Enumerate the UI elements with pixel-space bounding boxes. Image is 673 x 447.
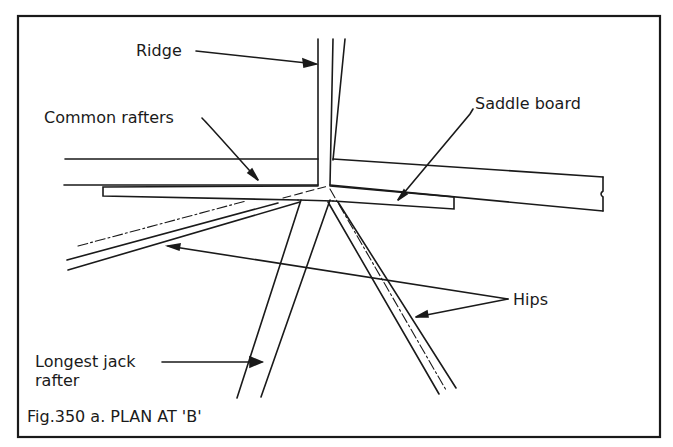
label-hips: Hips	[513, 290, 548, 309]
label-longest-jack: Longest jack	[35, 352, 136, 371]
plan-diagram	[0, 0, 673, 447]
label-longest-jack-rafter: rafter	[35, 371, 79, 390]
label-ridge: Ridge	[136, 41, 182, 60]
label-saddle-board: Saddle board	[475, 94, 581, 113]
figure-frame	[18, 16, 660, 437]
figure-caption: Fig.350 a. PLAN AT 'B'	[27, 407, 202, 426]
label-common-rafters: Common rafters	[44, 108, 174, 127]
